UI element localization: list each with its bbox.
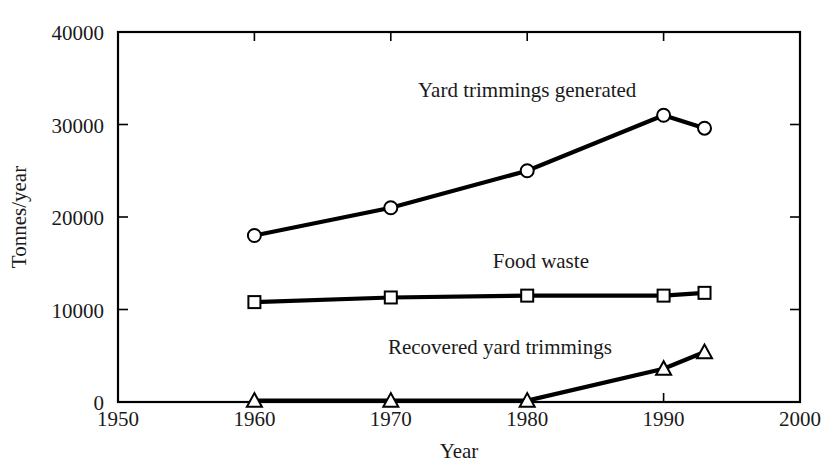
y-tick-label: 20000	[52, 206, 105, 230]
series-line-0	[254, 115, 704, 235]
marker-square	[699, 287, 711, 299]
x-tick-label: 2000	[779, 407, 821, 431]
marker-circle	[384, 201, 397, 214]
marker-square	[248, 296, 260, 308]
series-line-1	[254, 293, 704, 302]
marker-square	[385, 291, 397, 303]
x-tick-label: 1980	[506, 407, 548, 431]
y-axis-title: Tonnes/year	[7, 166, 31, 268]
y-tick-label: 10000	[52, 299, 105, 323]
series-label-0: Yard trimmings generated	[418, 78, 637, 102]
marker-circle	[248, 229, 261, 242]
y-tick-label: 40000	[52, 21, 105, 45]
line-chart: 1950196019701980199020000100002000030000…	[0, 0, 833, 475]
x-axis-title: Year	[440, 439, 479, 463]
marker-square	[658, 290, 670, 302]
y-tick-label: 0	[94, 391, 105, 415]
x-tick-label: 1960	[233, 407, 275, 431]
x-tick-label: 1990	[643, 407, 685, 431]
chart-page: 1950196019701980199020000100002000030000…	[0, 0, 833, 475]
marker-triangle	[697, 345, 712, 359]
marker-circle	[521, 164, 534, 177]
series-label-1: Food waste	[493, 249, 589, 273]
marker-square	[521, 290, 533, 302]
x-tick-label: 1970	[370, 407, 412, 431]
y-tick-label: 30000	[52, 114, 105, 138]
marker-circle	[698, 122, 711, 135]
marker-circle	[657, 109, 670, 122]
series-label-2: Recovered yard trimmings	[388, 335, 612, 359]
series-line-2	[254, 352, 704, 401]
